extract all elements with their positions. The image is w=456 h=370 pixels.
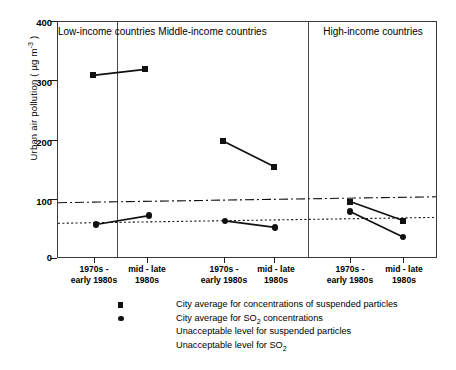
x-tick-label-line2: 1980s	[110, 275, 184, 286]
marker-particles-high-2	[400, 218, 406, 224]
x-tick-label-line1: mid - late	[239, 264, 313, 275]
legend-label-text: City average for concentrations of suspe…	[176, 299, 398, 309]
x-tick-label-line2: 1980s	[367, 275, 441, 286]
legend-item-so2: City average for SO2 concentrations	[92, 312, 442, 326]
chart-legend: City average for concentrations of suspe…	[92, 298, 442, 352]
series-segment-particles-low	[93, 69, 145, 75]
marker-particles-low-1	[90, 72, 96, 78]
x-tick-label-line1: mid - late	[110, 264, 184, 275]
marker-so2-low-2	[146, 212, 152, 218]
y-tick-mark-100	[50, 199, 57, 200]
marker-particles-high-1	[347, 199, 353, 205]
data-series-layer	[58, 22, 438, 259]
x-tick-label-line2: 1980s	[239, 275, 313, 286]
legend-label-unacceptable-particles: Unacceptable level for suspended particl…	[176, 326, 351, 336]
marker-particles-middle-2	[271, 164, 277, 170]
legend-label-subscript: 2	[283, 344, 287, 351]
y-tick-mark-300	[50, 80, 57, 81]
y-tick-label-0: 0	[18, 252, 52, 263]
x-tick-mark-middle-1	[224, 258, 225, 263]
series-segment-particles-high	[350, 202, 403, 221]
series-segment-so2-low	[96, 216, 149, 225]
series-segment-so2-middle	[225, 221, 275, 228]
y-tick-label-400: 400	[18, 17, 52, 28]
marker-particles-middle-1	[220, 138, 226, 144]
y-tick-label-100: 100	[18, 196, 52, 207]
legend-label-suffix: concentrations	[261, 313, 323, 323]
marker-so2-high-1	[347, 208, 353, 214]
legend-label-text: Unacceptable level for suspended particl…	[176, 326, 351, 336]
legend-label-unacceptable-so2: Unacceptable level for SO2	[176, 340, 287, 352]
y-tick-mark-0	[50, 258, 57, 259]
square-marker-icon	[118, 302, 123, 307]
chart-figure: Urban air pollution ( µg m-3 ) 400 300 2…	[0, 0, 456, 370]
y-tick-label-300: 300	[18, 77, 52, 88]
legend-key-square	[92, 298, 170, 312]
y-axis-title-suffix: )	[28, 36, 39, 42]
series-segment-particles-middle	[223, 141, 274, 167]
marker-particles-low-2	[142, 66, 148, 72]
x-tick-mark-high-1	[350, 258, 351, 263]
marker-so2-low-1	[93, 221, 99, 227]
y-tick-mark-200	[50, 140, 57, 141]
series-segment-so2-high	[350, 212, 403, 238]
legend-item-unacceptable-particles: Unacceptable level for suspended particl…	[92, 325, 442, 339]
legend-key-dotted	[92, 339, 170, 353]
y-axis-title-exponent: -3	[27, 42, 34, 49]
circle-marker-icon	[118, 316, 124, 322]
x-tick-mark-middle-2	[274, 258, 275, 263]
legend-label-suspended-particles: City average for concentrations of suspe…	[176, 299, 398, 309]
legend-label-so2: City average for SO2 concentrations	[176, 313, 323, 325]
y-axis-title: Urban air pollution ( µg m-3 )	[27, 13, 39, 183]
x-tick-mark-low-1	[94, 258, 95, 263]
legend-key-dash-dot	[92, 325, 170, 339]
plot-area: Low-income countries Middle-income count…	[57, 21, 437, 258]
y-tick-label-200: 200	[18, 137, 52, 148]
x-tick-mark-high-2	[403, 258, 404, 263]
x-tick-label-line1: mid - late	[367, 264, 441, 275]
legend-label-text: City average for SO	[176, 313, 257, 323]
x-tick-label-high-2: mid - late 1980s	[367, 264, 441, 285]
legend-label-text: Unacceptable level for SO	[176, 340, 283, 350]
legend-key-circle	[92, 312, 170, 326]
legend-item-unacceptable-so2: Unacceptable level for SO2	[92, 339, 442, 353]
x-tick-label-middle-2: mid - late 1980s	[239, 264, 313, 285]
x-tick-mark-low-2	[147, 258, 148, 263]
legend-item-suspended-particles: City average for concentrations of suspe…	[92, 298, 442, 312]
x-tick-label-low-2: mid - late 1980s	[110, 264, 184, 285]
marker-so2-middle-2	[272, 224, 278, 230]
y-tick-mark-400	[50, 21, 57, 22]
